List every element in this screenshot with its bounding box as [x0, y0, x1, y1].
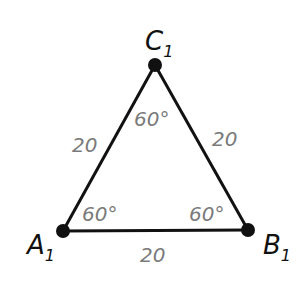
vertex-label-b1: B1	[263, 230, 291, 265]
angle-label-c1: 60°	[134, 107, 169, 131]
side-a1-b1	[63, 230, 248, 231]
vertex-dot-a1	[56, 224, 70, 238]
side-length-a1-c1: 20	[72, 133, 97, 157]
side-length-c1-b1: 20	[212, 127, 237, 151]
side-length-a1-b1: 20	[140, 243, 165, 267]
vertex-dot-b1	[241, 223, 255, 237]
triangle-diagram: C1 A1 B1 20 20 20 60° 60° 60°	[0, 0, 301, 284]
diagram-svg: C1 A1 B1 20 20 20 60° 60° 60°	[0, 0, 301, 284]
vertex-label-a1: A1	[25, 230, 55, 265]
angle-label-b1: 60°	[189, 202, 224, 226]
angle-label-a1: 60°	[82, 202, 117, 226]
vertex-label-c1: C1	[145, 26, 173, 61]
vertex-dot-c1	[148, 58, 162, 72]
